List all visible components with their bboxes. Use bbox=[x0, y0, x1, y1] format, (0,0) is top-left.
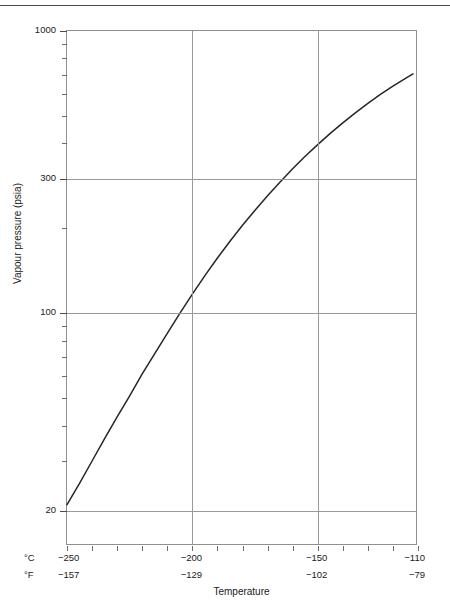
x-tick-label-celsius: −200 bbox=[161, 553, 221, 563]
tick-y-minor bbox=[62, 398, 67, 399]
unit-celsius-label: °C bbox=[24, 553, 35, 563]
gridline-x bbox=[192, 31, 193, 544]
vapour-pressure-curve bbox=[67, 74, 413, 505]
tick-y-minor bbox=[62, 461, 67, 462]
tick-x-minor bbox=[293, 546, 294, 551]
vapour-pressure-chart: Vapour pressure (psia) Temperature °C °F… bbox=[0, 0, 450, 609]
curve-svg bbox=[67, 31, 418, 546]
tick-x-minor bbox=[243, 546, 244, 551]
tick-y-minor bbox=[62, 143, 67, 144]
x-tick-label-fahrenheit: −157 bbox=[58, 570, 118, 580]
x-tick-label-celsius: −150 bbox=[287, 553, 347, 563]
tick-x-minor bbox=[92, 546, 93, 551]
tick-x-minor bbox=[167, 546, 168, 551]
gridline-x bbox=[318, 31, 319, 544]
unit-fahrenheit-label: °F bbox=[24, 570, 34, 580]
x-tick-label-fahrenheit: −102 bbox=[287, 570, 347, 580]
tick-x-minor bbox=[192, 546, 193, 551]
tick-x-minor bbox=[217, 546, 218, 551]
y-tick-label: 100 bbox=[18, 307, 56, 317]
x-tick-label-fahrenheit: −79 bbox=[365, 570, 425, 580]
tick-y-minor bbox=[62, 341, 67, 342]
tick-y-minor bbox=[62, 116, 67, 117]
tick-y-minor bbox=[62, 58, 67, 59]
y-tick-label: 1000 bbox=[18, 25, 56, 35]
tick-y-minor bbox=[62, 75, 67, 76]
plot-area bbox=[66, 30, 417, 545]
tick-y-minor bbox=[62, 44, 67, 45]
tick-x-minor bbox=[418, 546, 419, 551]
tick-y-minor bbox=[62, 228, 67, 229]
x-tick-label-fahrenheit: −129 bbox=[161, 570, 221, 580]
y-tick-label: 300 bbox=[18, 173, 56, 183]
tick-y-minor bbox=[62, 376, 67, 377]
tick-x-minor bbox=[67, 546, 68, 551]
x-tick-label-celsius: −250 bbox=[58, 553, 118, 563]
tick-y-minor bbox=[62, 94, 67, 95]
x-axis-title: Temperature bbox=[66, 586, 417, 597]
tick-x-minor bbox=[343, 546, 344, 551]
tick-x-minor bbox=[368, 546, 369, 551]
tick-y-major bbox=[60, 179, 67, 180]
tick-y-minor bbox=[62, 426, 67, 427]
tick-y-major bbox=[60, 511, 67, 512]
tick-x-minor bbox=[318, 546, 319, 551]
tick-y-minor bbox=[62, 357, 67, 358]
gridline-y bbox=[67, 313, 416, 314]
x-tick-label-celsius: −110 bbox=[365, 553, 425, 563]
y-tick-label: 20 bbox=[18, 505, 56, 515]
tick-y-major bbox=[60, 31, 67, 32]
tick-y-minor bbox=[62, 326, 67, 327]
gridline-y bbox=[67, 511, 416, 512]
tick-x-minor bbox=[117, 546, 118, 551]
gridline-y bbox=[67, 179, 416, 180]
tick-x-minor bbox=[142, 546, 143, 551]
tick-y-major bbox=[60, 313, 67, 314]
tick-x-minor bbox=[393, 546, 394, 551]
tick-x-minor bbox=[268, 546, 269, 551]
